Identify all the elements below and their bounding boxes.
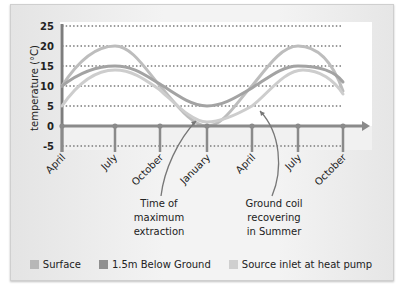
x-tick-october-2: October [312, 151, 349, 188]
svg-text:Time of: Time of [139, 198, 178, 209]
chart-svg: 25 20 15 10 5 0 -5 temperature (°C) Apri [0, 0, 402, 286]
y-tick-15: 15 [40, 61, 54, 72]
y-tick-labels: 25 20 15 10 5 0 -5 [40, 21, 54, 152]
legend-label: Source inlet at heat pump [242, 259, 372, 270]
y-tick-25: 25 [40, 21, 54, 32]
x-tick-april-2: April [233, 152, 257, 176]
x-tick-july-1: July [98, 152, 119, 173]
legend: Surface 1.5m Below Ground Source inlet a… [0, 255, 402, 273]
legend-item-below-ground: 1.5m Below Ground [99, 259, 211, 270]
legend-swatch-icon [30, 260, 39, 269]
legend-item-surface: Surface [30, 259, 81, 270]
legend-label: 1.5m Below Ground [112, 259, 211, 270]
x-tick-july-2: July [282, 152, 303, 173]
legend-swatch-icon [99, 260, 108, 269]
y-tick-10: 10 [40, 81, 54, 92]
y-tick-minus5: -5 [43, 141, 54, 152]
annotation-recovery: Ground coil recovering in Summer [245, 198, 302, 237]
svg-text:recovering: recovering [247, 212, 300, 223]
y-axis-title: temperature (°C) [29, 45, 40, 131]
x-tick-october-1: October [129, 151, 166, 188]
svg-text:in Summer: in Summer [247, 226, 303, 237]
legend-label: Surface [43, 259, 81, 270]
legend-swatch-icon [229, 260, 238, 269]
y-tick-20: 20 [40, 41, 54, 52]
x-tick-january: January [177, 152, 212, 187]
y-tick-0: 0 [47, 121, 54, 132]
legend-item-source-inlet: Source inlet at heat pump [229, 259, 372, 270]
x-tick-labels: April July October January April July Oc… [43, 151, 349, 188]
x-tick-april-1: April [43, 152, 67, 176]
svg-text:maximum: maximum [134, 212, 184, 223]
annotation-extraction: Time of maximum extraction [134, 198, 185, 237]
svg-text:extraction: extraction [134, 226, 185, 237]
y-tick-5: 5 [47, 101, 54, 112]
svg-text:Ground coil: Ground coil [245, 198, 302, 209]
